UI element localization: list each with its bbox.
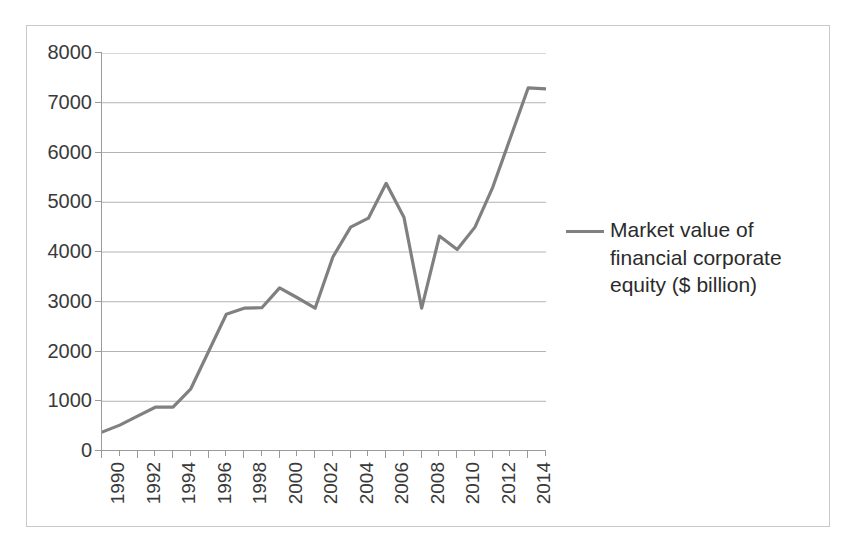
y-axis-tick-label: 3000	[26, 291, 92, 311]
x-axis-tick-label: 2002	[321, 462, 340, 504]
x-axis-tick-label: 1994	[179, 462, 198, 504]
series-line-market-value	[102, 88, 546, 432]
y-axis-tick-label: 0	[26, 440, 92, 460]
x-axis-tick-mark	[261, 451, 262, 456]
x-axis-tick-mark	[492, 451, 493, 458]
x-axis-tick-mark	[421, 451, 422, 458]
x-axis-tick-mark	[474, 451, 475, 456]
x-axis-tick-label: 2012	[499, 462, 518, 504]
x-axis-tick-mark	[545, 451, 546, 456]
x-axis-tick-mark	[438, 451, 439, 456]
chart-canvas	[102, 53, 546, 451]
y-axis-tick-mark	[95, 301, 102, 302]
x-axis-tick-mark	[172, 451, 173, 458]
y-axis-tick-label: 1000	[26, 390, 92, 410]
x-axis-tick-mark	[296, 451, 297, 456]
y-axis-tick-mark	[95, 102, 102, 103]
x-axis-tick-label: 2000	[286, 462, 305, 504]
x-axis-tick-label: 2008	[428, 462, 447, 504]
y-axis-tick-mark	[95, 400, 102, 401]
x-axis-tick-label: 2014	[534, 462, 553, 504]
x-axis-tick-mark	[137, 451, 138, 458]
gridlines	[102, 53, 546, 451]
legend-label-market-value: Market value of financial corporate equi…	[610, 216, 810, 299]
y-axis-tick-label: 7000	[26, 92, 92, 112]
x-axis-tick-mark	[190, 451, 191, 456]
y-axis-tick-mark	[95, 351, 102, 352]
y-axis-tick-label: 4000	[26, 241, 92, 261]
y-axis-tick-label: 8000	[26, 42, 92, 62]
y-axis-tick-labels: 800070006000500040003000200010000	[20, 0, 92, 554]
y-axis-tick-label: 5000	[26, 191, 92, 211]
x-axis-tick-label: 2006	[392, 462, 411, 504]
x-axis-tick-mark	[154, 451, 155, 456]
x-axis-tick-mark	[385, 451, 386, 458]
y-axis-tick-mark	[95, 251, 102, 252]
x-axis-tick-mark	[456, 451, 457, 458]
x-axis-tick-mark	[225, 451, 226, 456]
x-axis-tick-mark	[279, 451, 280, 458]
y-axis-tick-mark	[95, 201, 102, 202]
x-axis-tick-mark	[243, 451, 244, 458]
x-axis-tick-mark	[119, 451, 120, 456]
x-axis-tick-label: 1992	[144, 462, 163, 504]
x-axis-tick-mark	[332, 451, 333, 456]
x-axis-tick-mark	[509, 451, 510, 456]
x-axis-tick-mark	[314, 451, 315, 458]
y-axis-tick-label: 2000	[26, 341, 92, 361]
legend-line-swatch	[566, 230, 604, 233]
y-axis-tick-mark	[95, 52, 102, 53]
x-axis-tick-label: 1990	[108, 462, 127, 504]
x-axis	[101, 450, 546, 451]
y-axis-tick-mark	[95, 152, 102, 153]
x-axis-tick-mark	[350, 451, 351, 458]
x-axis-tick-mark	[527, 451, 528, 458]
x-axis-tick-label: 2004	[357, 462, 376, 504]
x-axis-tick-label: 1996	[215, 462, 234, 504]
x-axis-tick-label: 1998	[250, 462, 269, 504]
x-axis-tick-label: 2010	[463, 462, 482, 504]
x-axis-tick-mark	[367, 451, 368, 456]
x-axis-tick-mark	[403, 451, 404, 456]
plot-area	[102, 53, 546, 451]
x-axis-tick-mark	[101, 451, 102, 458]
x-axis-tick-mark	[208, 451, 209, 458]
y-axis-tick-label: 6000	[26, 142, 92, 162]
